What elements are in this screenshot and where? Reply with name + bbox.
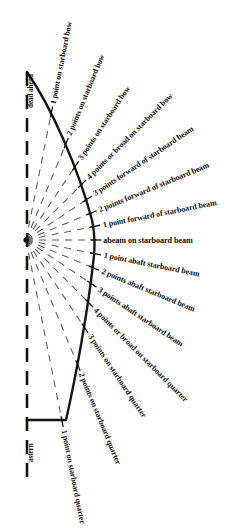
bearing-line-2-points-forward-starboard-beam [26, 213, 92, 240]
ship-hull-outline [27, 72, 94, 420]
bearing-line-2-points-starboard-bow [26, 143, 66, 240]
bearing-tick-marks [23, 107, 101, 427]
bearing-line-3-points-starboard-bow [26, 165, 76, 240]
bearing-tick-1-point-forward-starboard-beam [89, 225, 100, 227]
bearing-line-1-point-starboard-bow [26, 111, 52, 240]
bearing-lines-group [26, 111, 96, 421]
bearing-line-1-point-forward-starboard-beam [26, 226, 95, 240]
bearing-tick-1-point-abaft-starboard-beam [90, 253, 101, 255]
bearing-line-4-points-broad-starboard-bow [26, 183, 83, 240]
observer-center-point [23, 237, 28, 242]
ship-outline-group [27, 72, 94, 481]
relative-bearing-diagram [0, 0, 247, 528]
bearing-tick-2-points-abaft-starboard-beam [89, 266, 99, 270]
bearing-line-1-point-abaft-starboard-beam [26, 240, 96, 254]
bearing-tick-1-point-starboard-quarter [61, 416, 63, 427]
bearing-line-3-points-abaft-starboard-beam [26, 240, 92, 284]
bearing-line-2-points-starboard-quarter [26, 240, 78, 366]
bearing-line-4-points-broad-starboard-quarter [26, 240, 89, 303]
